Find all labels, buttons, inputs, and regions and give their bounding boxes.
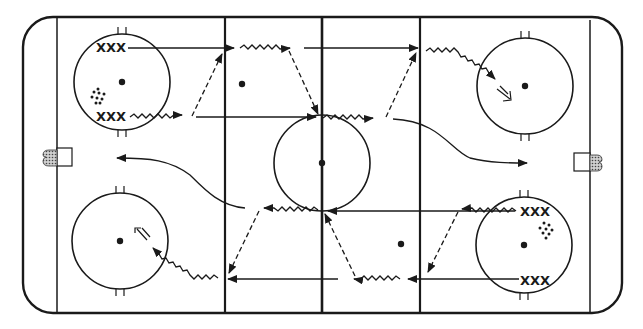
- neutral-zone-dot-left: [239, 81, 245, 87]
- puck-carry-arrow: [130, 114, 182, 118]
- net-left: [43, 148, 72, 166]
- pass-arrow: [325, 214, 355, 276]
- pass-arrow: [386, 53, 416, 117]
- faceoff-circle-bottom-left: [72, 186, 168, 296]
- puck-carry-arrow: [354, 276, 400, 280]
- pass-arrow: [428, 212, 458, 272]
- skate-arrow: [393, 119, 527, 163]
- puck-pile-icon: [91, 88, 106, 105]
- player-group-xxx: XXX: [96, 40, 126, 55]
- player-group-xxx: XXX: [96, 109, 126, 124]
- faceoff-circle-top-right: [477, 31, 573, 141]
- net-right: [574, 153, 602, 171]
- pass-arrow: [229, 211, 259, 273]
- shot-arrow-icon: [497, 86, 511, 101]
- player-group-xxx: XXX: [520, 273, 550, 288]
- puck-pile-icon: [539, 222, 554, 240]
- neutral-zone-dot-right: [398, 241, 404, 247]
- pass-arrow: [289, 51, 318, 114]
- hockey-rink-diagram: XXX XXX XXX XXX: [0, 0, 643, 329]
- pass-arrow: [192, 54, 222, 116]
- shot-arrow-icon: [135, 228, 150, 240]
- player-group-xxx: XXX: [520, 204, 550, 219]
- puck-carry-arrow: [426, 48, 495, 79]
- puck-carry-arrow: [240, 45, 290, 49]
